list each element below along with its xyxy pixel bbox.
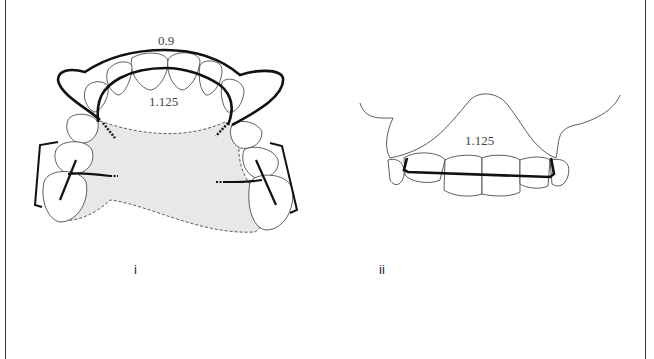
outer-wire-label: 0.9 [158, 33, 174, 48]
inner-wire-label: 1.125 [149, 94, 178, 109]
bow-label: 1.125 [465, 133, 494, 148]
panel-label-ii: ii [379, 262, 385, 277]
gum-outline [360, 94, 620, 158]
panel-i-drawing: 0.9 1.125 [35, 33, 297, 232]
dental-diagram: 0.9 1.125 1.125 [0, 0, 654, 359]
panel-label-i: i [134, 262, 137, 277]
panel-ii-drawing: 1.125 [360, 94, 620, 196]
